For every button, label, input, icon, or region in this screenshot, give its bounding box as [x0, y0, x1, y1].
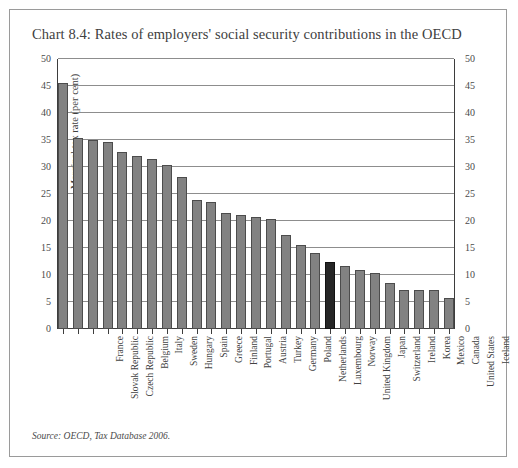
x-tick-label: Germany — [308, 336, 318, 436]
x-tick-label: Poland — [323, 336, 333, 436]
x-tick-label: Turkey — [293, 336, 303, 436]
y-tick-label: 10 — [465, 270, 475, 280]
bar — [192, 200, 202, 329]
x-tick-label: France — [115, 336, 125, 436]
x-tick-label: Korea — [442, 336, 452, 436]
x-tick-label: Norway — [367, 336, 377, 436]
x-tick — [93, 329, 94, 334]
x-tick — [434, 329, 435, 334]
y-tick-label: 40 — [41, 108, 51, 118]
bar — [310, 253, 320, 329]
x-tick — [122, 329, 123, 334]
x-tick-label: Spain — [219, 336, 229, 436]
x-tick-label: Finland — [249, 336, 259, 436]
x-tick-label: Austria — [278, 336, 288, 436]
chart-title: Chart 8.4: Rates of employers' social se… — [32, 26, 462, 43]
x-tick — [256, 329, 257, 334]
x-tick — [241, 329, 242, 334]
y-tick-label: 35 — [41, 135, 51, 145]
x-tick-label: Luxembourg — [353, 336, 363, 436]
x-tick-label: Belgium — [160, 336, 170, 436]
x-tick-label: Netherlands — [338, 336, 348, 436]
x-tick — [211, 329, 212, 334]
x-tick — [375, 329, 376, 334]
x-tick — [271, 329, 272, 334]
bar — [221, 213, 231, 329]
x-tick-label: Czech Republic — [145, 336, 155, 436]
bar — [370, 273, 380, 329]
x-tick — [404, 329, 405, 334]
bar — [88, 140, 98, 329]
x-tick — [419, 329, 420, 334]
x-tick — [301, 329, 302, 334]
x-tick-label: Mexico — [456, 336, 466, 436]
bar-series — [58, 59, 454, 329]
x-tick-label: Ireland — [427, 336, 437, 436]
y-tick-label: 0 — [465, 324, 470, 334]
x-tick — [167, 329, 168, 334]
bar — [251, 217, 261, 329]
y-tick-label: 50 — [465, 54, 475, 64]
y-tick-label: 45 — [465, 81, 475, 91]
x-tick — [226, 329, 227, 334]
y-tick-label: 20 — [465, 216, 475, 226]
x-tick-label: Italy — [174, 336, 184, 436]
bar — [444, 298, 454, 329]
y-tick-label: 30 — [41, 162, 51, 172]
y-tick-label: 0 — [46, 324, 51, 334]
x-tick — [390, 329, 391, 334]
y-tick-label: 5 — [46, 297, 51, 307]
x-tick — [152, 329, 153, 334]
bar — [281, 235, 291, 329]
bar — [162, 165, 172, 329]
bar — [117, 152, 127, 329]
x-tick-label: United States — [486, 336, 496, 436]
x-tick — [360, 329, 361, 334]
y-tick-label: 25 — [465, 189, 475, 199]
y-tick-label: 35 — [465, 135, 475, 145]
bar — [414, 290, 424, 329]
bar — [147, 159, 157, 329]
bar — [177, 177, 187, 329]
x-tick — [78, 329, 79, 334]
x-tick — [286, 329, 287, 334]
x-tick — [182, 329, 183, 334]
y-tick-label: 50 — [41, 54, 51, 64]
bar — [103, 142, 113, 329]
x-tick — [449, 329, 450, 334]
bar — [385, 283, 395, 329]
x-tick-label: Canada — [471, 336, 481, 436]
x-tick-label: Portugal — [263, 336, 273, 436]
x-tick — [345, 329, 346, 334]
source-note: Source: OECD, Tax Database 2006. — [32, 431, 170, 441]
y-tick-label: 45 — [41, 81, 51, 91]
x-tick — [197, 329, 198, 334]
bar — [355, 270, 365, 329]
plot-area — [58, 59, 454, 329]
x-tick — [330, 329, 331, 334]
y-tick-label: 5 — [465, 297, 470, 307]
x-tick — [137, 329, 138, 334]
bar — [325, 262, 335, 330]
x-tick-label: Sweden — [189, 336, 199, 436]
x-tick-label: Japan — [397, 336, 407, 436]
y-tick-label: 20 — [41, 216, 51, 226]
y-tick-label: 40 — [465, 108, 475, 118]
bar — [296, 245, 306, 329]
y-axis-right — [454, 59, 455, 329]
y-tick-label: 15 — [465, 243, 475, 253]
bar — [236, 215, 246, 329]
bar — [73, 138, 83, 329]
bar — [429, 290, 439, 329]
bar — [132, 156, 142, 329]
bar — [206, 202, 216, 329]
x-tick — [315, 329, 316, 334]
x-tick-label: United Kingdom — [382, 336, 392, 436]
x-tick-label: Greece — [234, 336, 244, 436]
x-axis-labels: FranceSlovak RepublicCzech RepublicBelgi… — [58, 336, 454, 436]
y-tick-label: 25 — [41, 189, 51, 199]
y-tick-label: 30 — [465, 162, 475, 172]
bar — [266, 219, 276, 329]
bar — [340, 266, 350, 329]
x-tick — [63, 329, 64, 334]
